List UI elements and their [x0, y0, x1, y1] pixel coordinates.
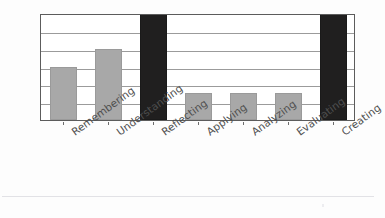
bar-remembering[interactable] [50, 67, 77, 121]
x-axis-tick [63, 122, 64, 125]
x-axis-tick [243, 122, 244, 125]
x-axis-tick [108, 122, 109, 125]
scan-artifact-line [2, 196, 374, 197]
bar-chart-figure: RememberingUnderstandingReflectingApplyi… [0, 0, 385, 218]
x-axis-tick [198, 122, 199, 125]
scan-artifact-speck [322, 204, 324, 207]
x-axis-tick [288, 122, 289, 125]
x-axis-tick [333, 122, 334, 125]
x-axis-tick [153, 122, 154, 125]
